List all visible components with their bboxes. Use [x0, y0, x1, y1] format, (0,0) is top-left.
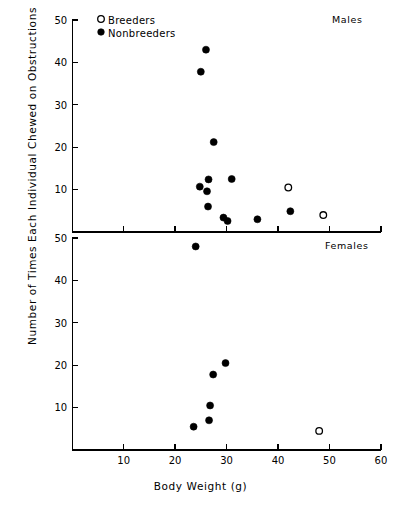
scatter-figure: Number of Times Each Individual Chewed o… [0, 0, 401, 508]
legend-label-breeders: Breeders [108, 15, 155, 26]
text-layer: Males Females Breeders Nonbreeders [0, 0, 401, 508]
panel-label-females: Females [325, 240, 369, 251]
panel-label-males: Males [332, 14, 362, 25]
legend-label-nonbreeders: Nonbreeders [108, 28, 176, 39]
